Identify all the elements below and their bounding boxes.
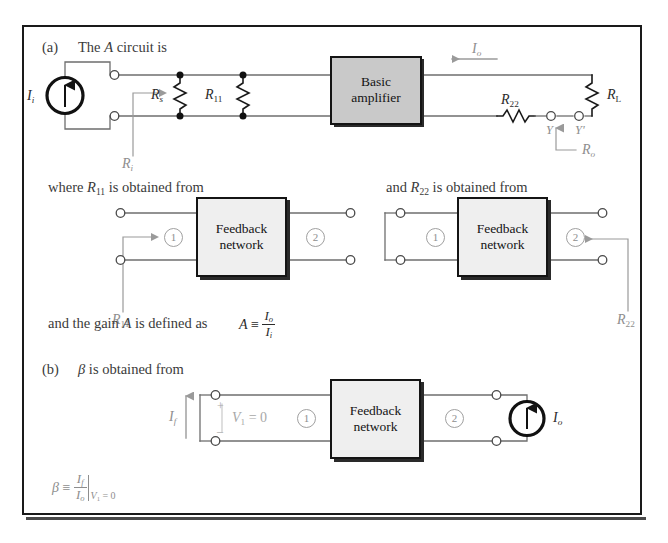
resistor-label-rs: Rs <box>151 88 163 104</box>
beta-symbol: β <box>52 480 59 495</box>
gain-text-prefix: and the gain <box>48 315 123 331</box>
if-subscript: f <box>174 416 177 426</box>
fb2-line-2: network <box>480 237 524 252</box>
polarity-minus-sign: – <box>217 425 223 437</box>
feedback-current-label-if: If <box>169 410 176 426</box>
r11-section-caption: where R11 is obtained from <box>48 180 204 196</box>
v1-symbol: V <box>232 410 241 425</box>
amplifier-line-2: amplifier <box>351 90 400 105</box>
resistor-label-rl: RL <box>607 88 621 104</box>
section-b-label-text: (b) <box>42 361 59 377</box>
fb2-box-shadow-right <box>548 200 551 280</box>
r11-subscript: 11 <box>214 94 223 104</box>
gain-denominator: Ii <box>262 325 275 340</box>
node-label-y-prime: Y' <box>575 124 585 137</box>
beta-equals: ≡ <box>62 480 70 495</box>
rl-subscript: L <box>616 94 622 104</box>
ro-symbol: R <box>582 142 591 157</box>
r11-caption-prefix: where <box>48 179 87 195</box>
figure-root: Basic amplifier Feedback network Feedbac… <box>0 0 668 543</box>
feedback-network-label-beta: Feedback network <box>330 403 421 435</box>
fb3-box-shadow-right <box>421 382 424 462</box>
section-a-intro-var: A <box>104 39 113 55</box>
rl-symbol: R <box>607 87 616 102</box>
rs-subscript: s <box>160 94 164 104</box>
port-circle-2-beta: 2 <box>445 409 464 428</box>
rs-symbol: R <box>151 87 160 102</box>
r11-caption-var-sub: 11 <box>96 186 105 197</box>
node-label-y: Y <box>546 124 553 137</box>
voltage-condition-v1: V1 = 0 <box>232 411 267 427</box>
beta-cond-value: = 0 <box>100 490 116 501</box>
output-current-label-io: Io <box>472 42 481 58</box>
beta-num-subscript: f <box>81 477 83 487</box>
source-current-label-ii: Ii <box>27 89 34 105</box>
r22-section-caption: and R22 is obtained from <box>386 180 528 196</box>
port-circle-1-r22: 1 <box>426 228 445 247</box>
fb1-box-shadow <box>200 277 290 280</box>
r11-symbol: R <box>205 87 214 102</box>
gain-fraction: Io Ii <box>262 309 275 340</box>
frame-drop-shadow <box>26 517 646 520</box>
r22-subscript: 22 <box>510 99 519 109</box>
section-b-intro-suffix: is obtained from <box>85 361 184 377</box>
section-a-label-text: (a) <box>42 39 58 55</box>
beta-denominator: Io <box>74 488 87 503</box>
r22-symbol: R <box>501 92 510 107</box>
gain-symbol: A <box>239 317 248 332</box>
r22-caption-prefix: and <box>386 179 411 195</box>
io-b-subscript: o <box>558 417 563 427</box>
ro-subscript: o <box>591 149 596 159</box>
fb2-box-shadow <box>461 277 551 280</box>
resistor-label-r22: R22 <box>501 93 519 109</box>
pointer-r22-symbol: R <box>617 312 626 327</box>
port-1-text-beta: 1 <box>304 412 310 424</box>
feedback-network-label-r22: Feedback network <box>457 221 548 253</box>
output-resistance-label-ro: Ro <box>582 143 595 159</box>
r22-caption-var-sub: 22 <box>419 186 429 197</box>
port-2-text-r22: 2 <box>573 231 579 243</box>
fb1-box-shadow-right <box>287 200 290 280</box>
pointer-r22-subscript: 22 <box>626 319 635 329</box>
basic-amplifier-label: Basic amplifier <box>330 74 422 106</box>
ri-symbol: R <box>122 156 131 171</box>
port-1-text-r11: 1 <box>171 231 177 243</box>
section-a-part-label: (a) <box>42 40 58 55</box>
fb3-line-1: Feedback <box>350 403 402 418</box>
gain-num-subscript: o <box>269 314 273 324</box>
ri-subscript: i <box>131 163 134 173</box>
section-a-intro-suffix: circuit is <box>113 39 167 55</box>
r22-caption-suffix: is obtained from <box>429 179 528 195</box>
output-source-label-io-b: Io <box>553 411 562 427</box>
fb3-line-2: network <box>353 419 397 434</box>
fb1-line-2: network <box>219 237 263 252</box>
r11-caption-var: R <box>87 179 96 195</box>
section-a-intro: The A circuit is <box>78 40 167 55</box>
v1-value: = 0 <box>245 410 267 425</box>
gain-definition-text: and the gain A is defined as <box>48 316 207 331</box>
gain-formula: A ≡ Io Ii <box>239 310 275 341</box>
gain-text-suffix: is defined as <box>131 315 207 331</box>
beta-definition-formula: β ≡ If Io V1 = 0 <box>52 473 116 504</box>
io-subscript: o <box>477 48 482 58</box>
pointer-label-r22: R22 <box>617 313 635 329</box>
port-1-text-r22: 1 <box>433 231 439 243</box>
amplifier-line-1: Basic <box>361 74 391 89</box>
port-circle-1-beta: 1 <box>297 409 316 428</box>
beta-condition: V1 = 0 <box>91 490 116 501</box>
gain-den-subscript: i <box>270 330 272 340</box>
beta-fraction: If Io <box>74 472 87 503</box>
gain-equals: ≡ <box>251 317 259 332</box>
plus-text: + <box>217 399 224 413</box>
node-y-text: Y <box>546 123 553 137</box>
minus-text: – <box>217 424 223 438</box>
ii-subscript: i <box>32 95 35 105</box>
port-circle-2-r11: 2 <box>306 228 325 247</box>
port-circle-1-r11: 1 <box>164 228 183 247</box>
resistor-label-r11: R11 <box>205 88 222 104</box>
gain-numerator: Io <box>262 309 275 325</box>
port-2-text-beta: 2 <box>452 412 458 424</box>
section-b-part-label: (b) <box>42 362 59 377</box>
section-a-intro-prefix: The <box>78 39 104 55</box>
fb3-box-shadow <box>334 459 424 462</box>
